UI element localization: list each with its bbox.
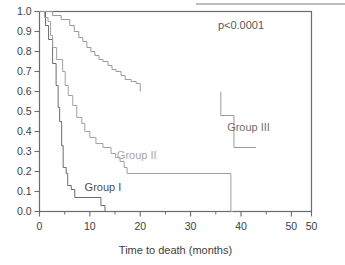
x-tick-label: 20	[134, 220, 146, 232]
series-line-group-ii	[40, 12, 233, 212]
x-tick-label: 50	[286, 220, 298, 232]
x-tick-label: 30	[185, 220, 197, 232]
survival-curve-chart: 0.00.10.20.30.40.50.60.70.80.91.00102030…	[0, 0, 345, 265]
y-tick-label: 0.5	[17, 105, 32, 117]
series-line-group-iii	[40, 12, 141, 92]
annotation-p-0-0001: p<0.0001	[218, 19, 264, 31]
plot-frame	[40, 12, 312, 212]
y-tick-label: 0.1	[17, 185, 32, 197]
y-tick-label: 1.0	[17, 5, 32, 17]
y-tick-label: 0.9	[17, 25, 32, 37]
y-tick-label: 0.7	[17, 65, 32, 77]
x-tick-label: 0	[37, 220, 43, 232]
annotation-group-iii: Group III	[227, 121, 270, 133]
y-tick-label: 0.8	[17, 45, 32, 57]
x-tick-label: 10	[84, 220, 96, 232]
x-tick-label: 40	[235, 220, 247, 232]
top-rule-decoration	[196, 3, 345, 5]
y-tick-label: 0.3	[17, 145, 32, 157]
x-axis-label: Time to death (months)	[119, 244, 232, 256]
y-tick-label: 0.6	[17, 85, 32, 97]
series-line-group-iii-tail	[221, 92, 256, 148]
annotation-group-i: Group I	[85, 181, 122, 193]
annotation-group-ii: Group II	[117, 149, 157, 161]
x-tick-label: 50	[306, 220, 318, 232]
y-tick-label: 0.0	[17, 205, 32, 217]
y-tick-label: 0.2	[17, 165, 32, 177]
kaplan-meier-figure: 0.00.10.20.30.40.50.60.70.80.91.00102030…	[0, 0, 345, 265]
y-tick-label: 0.4	[17, 125, 32, 137]
